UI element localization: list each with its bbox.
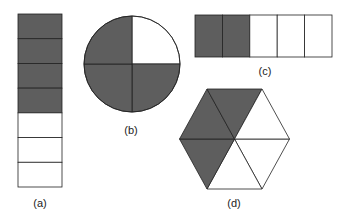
segment-shaded xyxy=(18,63,62,88)
segment-shaded xyxy=(18,88,62,113)
figure-d-label: (d) xyxy=(227,198,240,209)
segment-unshaded xyxy=(18,113,62,138)
figure-a-label: (a) xyxy=(33,198,46,209)
segment-unshaded xyxy=(277,15,304,57)
quarter-shaded xyxy=(132,64,180,112)
quarter-shaded xyxy=(84,16,132,64)
segment-shaded xyxy=(195,15,222,57)
segment-shaded xyxy=(18,39,62,64)
segment-shaded xyxy=(18,14,62,39)
segment-unshaded xyxy=(18,138,62,163)
quarter-unshaded xyxy=(132,16,180,64)
fraction-diagrams xyxy=(0,0,351,221)
figure-a-vertical-bar xyxy=(18,14,62,187)
segment-unshaded xyxy=(18,162,62,187)
figure-b-label: (b) xyxy=(124,125,137,136)
figure-c-label: (c) xyxy=(259,66,272,77)
segment-shaded xyxy=(222,15,249,57)
figure-b-circle xyxy=(84,16,180,112)
figure-c-horizontal-bar xyxy=(195,15,332,57)
segment-unshaded xyxy=(305,15,332,57)
quarter-shaded xyxy=(84,64,132,112)
segment-unshaded xyxy=(250,15,277,57)
figure-d-hexagon xyxy=(180,89,290,189)
